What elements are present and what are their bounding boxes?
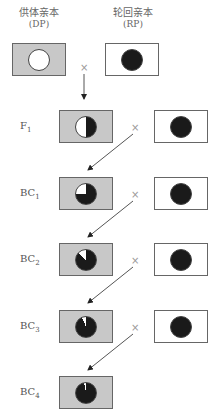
recurrent-genome-circle [170,316,192,338]
offspring-box [59,376,113,409]
genome-pie-icon [75,249,97,271]
recurrent-parent-box [154,243,208,276]
recurrent-genome-circle [170,249,192,271]
cross-symbol: × [131,122,139,133]
offspring-box [59,243,113,276]
genome-pie-icon [75,116,97,138]
recurrent-genome-circle [170,116,192,138]
offspring-box [59,177,113,210]
recurrent-parent-box [154,310,208,343]
generation-label: BC2 [20,253,40,267]
generation-label: F1 [20,120,31,134]
offspring-box [59,310,113,343]
cross-symbol: × [131,189,139,200]
recurrent-parent-box [154,110,208,143]
generation-label: BC4 [20,386,40,400]
offspring-box [59,110,113,143]
recurrent-genome-circle [170,183,192,205]
genome-pie-icon [75,382,97,404]
genome-pie-icon [75,316,97,338]
cross-symbol: × [131,255,139,266]
recurrent-parent-box [154,177,208,210]
cross-symbol: × [131,322,139,333]
genome-pie-icon [75,183,97,205]
generation-label: BC3 [20,320,40,334]
generation-label: BC1 [20,187,40,201]
